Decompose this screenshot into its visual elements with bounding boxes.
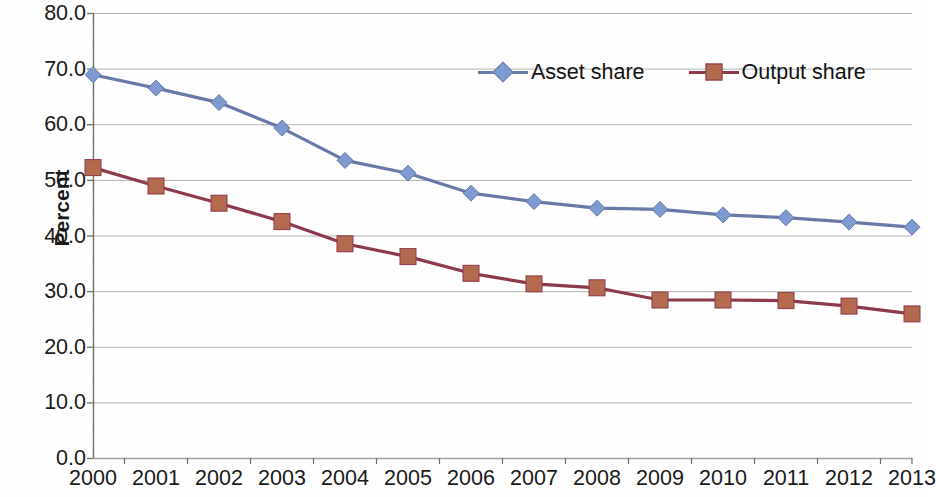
x-axis-tick-label: 2007 (510, 466, 558, 491)
data-point-marker (211, 195, 227, 211)
x-axis-tick-label: 2005 (384, 466, 432, 491)
data-point-marker (85, 160, 101, 176)
data-point-marker (778, 210, 794, 226)
legend-item-asset-share: Asset share (478, 59, 645, 85)
data-point-marker (589, 280, 605, 296)
data-point-marker (337, 152, 353, 168)
x-axis-tick-label: 2006 (447, 466, 495, 491)
data-point-marker (904, 219, 920, 235)
x-axis-tick-label: 2008 (573, 466, 621, 491)
x-axis-tick-label: 2011 (763, 466, 809, 491)
legend-diamond-icon (478, 62, 528, 82)
x-axis-tick-label: 2013 (888, 466, 936, 491)
x-axis-tick-label: 2009 (636, 466, 684, 491)
legend-label: Output share (742, 60, 866, 85)
data-point-marker (148, 178, 164, 194)
data-point-marker (652, 292, 668, 308)
data-point-marker (400, 165, 416, 181)
x-axis-tick-label: 2002 (195, 466, 243, 491)
data-point-marker (337, 236, 353, 252)
x-axis-tick-label: 2003 (258, 466, 306, 491)
data-point-marker (526, 276, 542, 292)
legend-item-output-share: Output share (689, 59, 866, 85)
x-axis-tick-label: 2012 (825, 466, 873, 491)
data-point-marker (463, 185, 479, 201)
x-axis-tick-label: 2004 (321, 466, 369, 491)
data-point-marker (652, 201, 668, 217)
data-point-marker (589, 200, 605, 216)
legend-label: Asset share (531, 60, 645, 85)
data-point-marker (715, 292, 731, 308)
legend-square-icon (689, 62, 739, 82)
data-point-marker (274, 120, 290, 136)
data-point-marker (715, 207, 731, 223)
chart-legend: Asset shareOutput share (478, 59, 866, 85)
data-point-marker (400, 249, 416, 265)
x-axis-tick-label: 2001 (132, 466, 180, 491)
data-point-marker (841, 298, 857, 314)
x-axis-tick-label: 2000 (69, 466, 117, 491)
data-point-marker (778, 293, 794, 309)
data-point-marker (211, 95, 227, 111)
data-point-marker (526, 194, 542, 210)
data-point-marker (463, 265, 479, 281)
data-point-marker (841, 214, 857, 230)
data-point-marker (904, 306, 920, 322)
x-axis-tick-label: 2010 (699, 466, 747, 491)
data-point-marker (274, 214, 290, 230)
data-point-marker (148, 80, 164, 96)
